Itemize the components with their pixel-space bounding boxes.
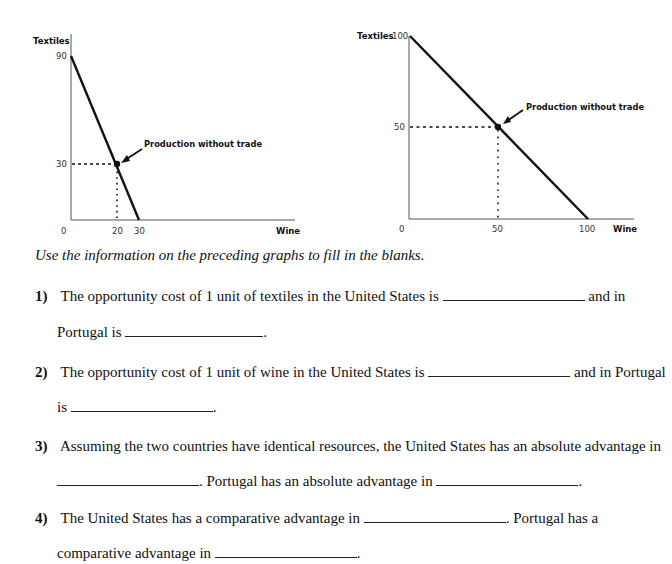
- x-tick-50: 50: [492, 224, 503, 234]
- question-number: 1): [35, 286, 57, 306]
- question-text: . Portugal has an absolute advantage in: [199, 473, 433, 489]
- instructions: Use the information on the preceding gra…: [35, 247, 424, 264]
- annotation-label: Production without trade: [144, 139, 262, 149]
- x-tick-30: 30: [134, 226, 145, 236]
- y-tick-50: 50: [394, 122, 405, 132]
- period: .: [578, 473, 582, 489]
- x-tick-100: 100: [579, 224, 595, 234]
- question-text: Portugal is: [57, 324, 122, 340]
- question-number: 2): [35, 362, 57, 382]
- annotation-label: Production without trade: [526, 102, 644, 112]
- question-3: 3) Assuming the two countries have ident…: [35, 436, 661, 456]
- portugal-ppf-chart: Textiles 100 50 Production without trade…: [340, 0, 672, 240]
- ppf-line: [71, 56, 139, 220]
- production-point: [114, 161, 120, 167]
- question-text-after: and in Portugal: [574, 364, 666, 380]
- question-number: 4): [35, 508, 57, 528]
- question-4-continued: comparative advantage in .: [57, 543, 361, 563]
- question-1-continued: Portugal is .: [57, 322, 267, 342]
- answer-blank-us-textiles[interactable]: [443, 286, 585, 301]
- y-tick-30: 30: [56, 159, 67, 169]
- y-axis-label: Textiles: [357, 31, 394, 41]
- x-axis-label: Wine: [276, 226, 300, 236]
- production-point: [495, 124, 501, 130]
- period: .: [263, 324, 267, 340]
- answer-blank-us-wine[interactable]: [428, 362, 570, 377]
- question-text: is: [57, 399, 67, 415]
- arrowhead-icon: [121, 155, 130, 163]
- us-ppf-svg: Textiles 90 30 Production without trade …: [0, 0, 340, 240]
- question-2: 2) The opportunity cost of 1 unit of win…: [35, 362, 666, 382]
- answer-blank-portugal-comparative[interactable]: [215, 543, 357, 558]
- x-tick-20: 20: [112, 226, 123, 236]
- answer-blank-portugal-wine[interactable]: [71, 397, 213, 412]
- question-4: 4) The United States has a comparative a…: [35, 508, 598, 528]
- y-axis-label: Textiles: [33, 36, 70, 46]
- x-tick-0: 0: [399, 224, 404, 234]
- question-number: 3): [35, 436, 57, 456]
- answer-blank-us-absolute[interactable]: [57, 471, 199, 486]
- question-2-continued: is .: [57, 397, 217, 417]
- arrowhead-icon: [503, 116, 511, 124]
- answer-blank-us-comparative[interactable]: [364, 508, 506, 523]
- x-tick-0: 0: [61, 226, 66, 236]
- y-tick-90: 90: [56, 51, 67, 61]
- question-text: The United States has a comparative adva…: [60, 510, 359, 526]
- answer-blank-portugal-textiles[interactable]: [125, 322, 263, 337]
- question-text: The opportunity cost of 1 unit of wine i…: [60, 364, 424, 380]
- question-text: Assuming the two countries have identica…: [60, 438, 661, 454]
- question-1: 1) The opportunity cost of 1 unit of tex…: [35, 286, 625, 306]
- us-ppf-chart: Textiles 90 30 Production without trade …: [0, 0, 340, 240]
- question-3-continued: . Portugal has an absolute advantage in …: [57, 471, 582, 491]
- question-text-after: . Portugal has a: [506, 510, 598, 526]
- question-text: The opportunity cost of 1 unit of textil…: [60, 288, 438, 304]
- question-text: comparative advantage in: [57, 545, 211, 561]
- period: .: [357, 545, 361, 561]
- period: .: [213, 399, 217, 415]
- y-tick-100: 100: [392, 31, 408, 41]
- question-text-after: and in: [588, 288, 625, 304]
- x-axis-label: Wine: [613, 224, 637, 234]
- answer-blank-portugal-absolute[interactable]: [436, 471, 578, 486]
- portugal-ppf-svg: Textiles 100 50 Production without trade…: [340, 0, 672, 240]
